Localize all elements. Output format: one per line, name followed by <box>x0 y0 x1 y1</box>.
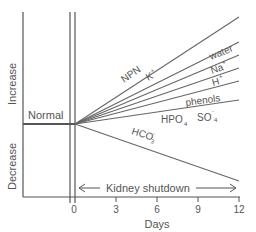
hco3-sub: 3 <box>150 138 156 145</box>
chart: Increase Decrease Normal NPN K + water N… <box>0 0 256 232</box>
decrease-label: Decrease <box>6 143 18 190</box>
hpo4-sub: 4 <box>184 121 188 127</box>
increase-label: Increase <box>6 63 18 105</box>
x-tick-label-6: 6 <box>154 204 160 215</box>
left-arrow-icon <box>79 184 100 192</box>
hpo4-label-group: HPO 4 <box>161 114 188 127</box>
hpo4-label: HPO <box>161 114 183 125</box>
k-label-group: K + <box>143 67 158 83</box>
hco3-sup: - <box>152 131 156 137</box>
x-axis-title: Days <box>144 218 170 230</box>
so4-sup: - <box>212 108 214 114</box>
normal-label: Normal <box>28 109 63 121</box>
x-tick-label-9: 9 <box>195 204 201 215</box>
right-arrow-icon <box>196 184 236 192</box>
x-tick-label-12: 12 <box>233 204 245 215</box>
kidney-shutdown-label: Kidney shutdown <box>106 182 190 194</box>
npn-label: NPN <box>119 64 143 85</box>
so4-label: SO <box>197 112 212 123</box>
x-tick-label-3: 3 <box>113 204 119 215</box>
hco3-label-group: HCO 3 - <box>130 124 158 145</box>
so4-sub: 4 <box>214 117 218 123</box>
phenols-label: phenols <box>185 92 221 108</box>
series-line-hco3 <box>75 124 239 181</box>
h-sup: + <box>218 73 223 80</box>
x-tick-label-0: 0 <box>71 204 77 215</box>
so4-label-group: SO - 4 <box>197 108 218 123</box>
water-label: water <box>207 42 235 62</box>
